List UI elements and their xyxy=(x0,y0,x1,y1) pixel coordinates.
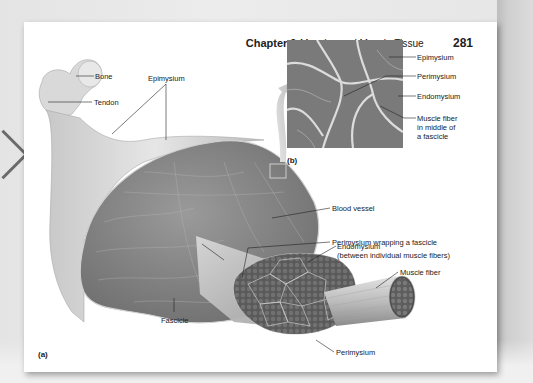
label-b-perimysium: Perimysium xyxy=(417,72,456,81)
label-endomysium: Endomysium xyxy=(337,242,380,251)
label-muscle-fiber: Muscle fiber xyxy=(400,268,440,277)
label-fascicle: Fascicle xyxy=(161,316,189,325)
figure-a-letter: (a) xyxy=(38,350,48,359)
micrograph-image xyxy=(287,40,403,148)
label-endomysium-detail: (between individual muscle fibers) xyxy=(337,251,450,260)
label-blood-vessel: Blood vessel xyxy=(332,204,375,213)
label-b-muscle-fiber-middle: Muscle fiber in middle of a fascicle xyxy=(417,114,461,141)
label-epimysium: Epimysium xyxy=(148,74,185,83)
label-b-epimysium: Epimysium xyxy=(417,53,454,62)
label-bone: Bone xyxy=(95,72,113,81)
label-b-endomysium: Endomysium xyxy=(417,92,460,101)
label-tendon: Tendon xyxy=(94,98,119,107)
textbook-page: Chapter 9 Muscles and Muscle Tissue 281 xyxy=(24,22,497,372)
figure-b-letter: (b) xyxy=(287,156,297,165)
viewer-background-right xyxy=(497,0,533,383)
label-perimysium: Perimysium xyxy=(336,348,375,357)
bone-graphic xyxy=(39,60,102,116)
